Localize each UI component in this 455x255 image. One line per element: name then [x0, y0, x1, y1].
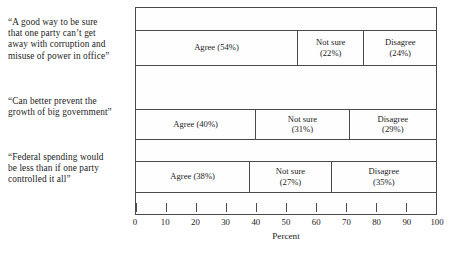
- x-tick: [196, 203, 197, 212]
- bar-segment-agree: Agree (54%): [136, 30, 298, 65]
- segment-label: Disagree: [369, 166, 400, 176]
- bar-segment-agree: Agree (40%): [136, 109, 256, 139]
- bar-segment-not-sure: Not sure (22%): [298, 30, 365, 65]
- x-axis: 0 10 20 30 40 50 60 70 80 90 100 Percent: [135, 215, 437, 255]
- segment-value: (22%): [320, 48, 341, 58]
- category-label-line: growth of big government”: [8, 107, 132, 118]
- x-tick: [436, 203, 437, 212]
- category-label-line: be less than if one party: [8, 163, 132, 174]
- category-label-line: away with corruption and: [8, 39, 132, 50]
- x-tick-label: 60: [312, 217, 321, 227]
- segment-label: Not sure: [276, 166, 305, 176]
- category-label-line: “A good way to be sure: [8, 17, 132, 28]
- x-tick: [226, 203, 227, 212]
- x-tick-label: 0: [133, 217, 137, 227]
- segment-text: Agree (54%): [194, 42, 239, 52]
- x-tick-label: 50: [282, 217, 291, 227]
- segment-label: Disagree: [378, 114, 409, 124]
- band-divider: [136, 192, 436, 193]
- segment-text: Agree (40%): [173, 119, 218, 129]
- plot-area: Agree (54%) Not sure (22%) Disagree (24%…: [135, 7, 437, 215]
- x-tick: [376, 203, 377, 212]
- x-tick: [256, 203, 257, 212]
- x-tick-label: 70: [342, 217, 351, 227]
- x-tick: [346, 203, 347, 212]
- segment-value: (29%): [382, 124, 403, 134]
- x-tick-label: 30: [221, 217, 230, 227]
- x-tick-label: 80: [372, 217, 381, 227]
- bar-row: Agree (40%) Not sure (31%) Disagree (29%…: [136, 109, 436, 139]
- stacked-bar-chart: “A good way to be sure that one party ca…: [0, 0, 455, 255]
- bar-segment-disagree: Disagree (35%): [332, 161, 436, 192]
- category-label-1: “Can better prevent the growth of big go…: [8, 96, 132, 118]
- band-divider: [136, 139, 436, 140]
- bar-segment-not-sure: Not sure (31%): [256, 109, 349, 139]
- segment-value: (27%): [280, 177, 301, 187]
- segment-text: Agree (38%): [170, 171, 215, 181]
- x-tick: [286, 203, 287, 212]
- segment-value: (35%): [373, 177, 394, 187]
- category-label-line: “Can better prevent the: [8, 96, 132, 107]
- category-label-line: controlled it all”: [8, 174, 132, 185]
- x-tick-label: 90: [402, 217, 411, 227]
- x-tick-label: 20: [191, 217, 200, 227]
- category-label-line: “Federal spending would: [8, 152, 132, 163]
- category-label-line: that one party can’t get: [8, 28, 132, 39]
- bar-segment-agree: Agree (38%): [136, 161, 250, 192]
- bar-segment-disagree: Disagree (24%): [364, 30, 436, 65]
- x-tick: [406, 203, 407, 212]
- category-label-line: misuse of power in office”: [8, 51, 132, 62]
- segment-value: (31%): [292, 124, 313, 134]
- category-label-0: “A good way to be sure that one party ca…: [8, 17, 132, 62]
- bar-row: Agree (54%) Not sure (22%) Disagree (24%…: [136, 30, 436, 65]
- bar-row: Agree (38%) Not sure (27%) Disagree (35%…: [136, 161, 436, 192]
- segment-label: Not sure: [316, 37, 345, 47]
- bar-segment-disagree: Disagree (29%): [350, 109, 436, 139]
- segment-label: Not sure: [288, 114, 317, 124]
- segment-label: Disagree: [385, 37, 416, 47]
- x-tick-label: 40: [251, 217, 260, 227]
- x-tick-label: 10: [161, 217, 170, 227]
- x-tick-label: 100: [430, 217, 443, 227]
- category-label-2: “Federal spending would be less than if …: [8, 152, 132, 186]
- band-divider: [136, 65, 436, 66]
- x-tick: [136, 203, 137, 212]
- x-tick: [316, 203, 317, 212]
- bar-segment-not-sure: Not sure (27%): [250, 161, 331, 192]
- x-axis-title: Percent: [135, 231, 437, 241]
- segment-value: (24%): [390, 48, 411, 58]
- x-tick: [166, 203, 167, 212]
